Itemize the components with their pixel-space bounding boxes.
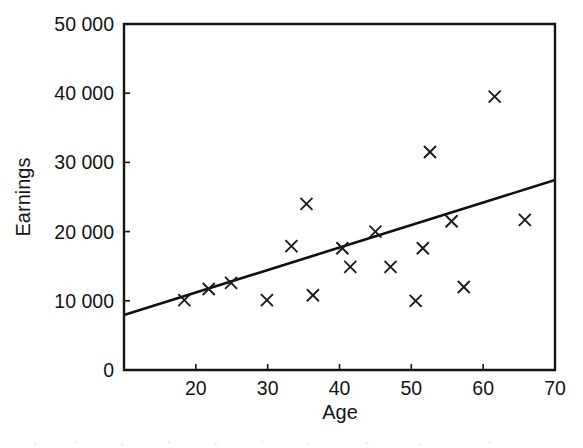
data-point-marker bbox=[417, 242, 429, 254]
y-tick-label: 50 000 bbox=[54, 13, 114, 35]
y-tick-label: 40 000 bbox=[54, 82, 114, 104]
x-tick-label: 60 bbox=[472, 377, 494, 399]
x-tick-label: 50 bbox=[400, 377, 422, 399]
x-axis-title: Age bbox=[322, 401, 358, 423]
y-tick-label: 0 bbox=[103, 359, 114, 381]
plot-frame bbox=[124, 24, 555, 370]
data-point-marker bbox=[307, 289, 319, 301]
data-point-marker bbox=[261, 294, 273, 306]
data-point-marker bbox=[410, 295, 422, 307]
scatter-plot-figure: 010 00020 00030 00040 00050 000 20304050… bbox=[0, 0, 583, 448]
scan-artifact-band bbox=[0, 438, 583, 448]
x-tick-label: 30 bbox=[257, 377, 279, 399]
x-tick-label: 70 bbox=[544, 377, 566, 399]
data-point-marker bbox=[489, 91, 501, 103]
plot-canvas: 010 00020 00030 00040 00050 000 20304050… bbox=[0, 0, 583, 448]
y-tick-label: 20 000 bbox=[54, 221, 114, 243]
data-point-marker bbox=[424, 146, 436, 158]
x-tick-label: 20 bbox=[185, 377, 207, 399]
data-point-marker bbox=[458, 281, 470, 293]
axis-border-path bbox=[124, 24, 555, 370]
y-axis-tick-labels: 010 00020 00030 00040 00050 000 bbox=[54, 13, 114, 381]
y-tick-label: 30 000 bbox=[54, 151, 114, 173]
data-point-marker bbox=[385, 261, 397, 273]
data-point-marker bbox=[300, 198, 312, 210]
data-point-markers bbox=[178, 91, 530, 307]
x-axis-tick-labels: 203040506070 bbox=[185, 377, 566, 399]
data-point-marker bbox=[519, 214, 531, 226]
data-point-marker bbox=[344, 261, 356, 273]
data-point-marker bbox=[446, 215, 458, 227]
x-tick-label: 40 bbox=[329, 377, 351, 399]
y-tick-label: 10 000 bbox=[54, 290, 114, 312]
y-axis-title: Earnings bbox=[12, 158, 34, 237]
data-point-marker bbox=[285, 240, 297, 252]
